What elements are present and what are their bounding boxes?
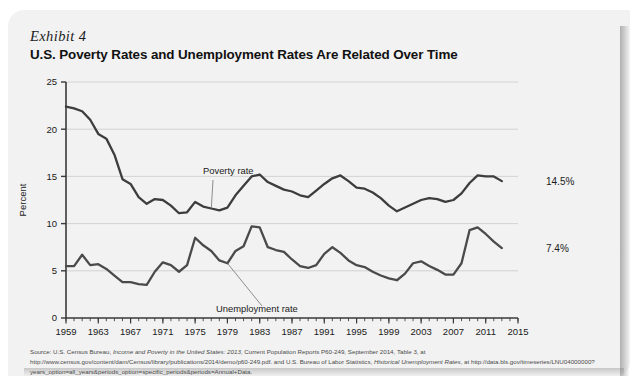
y-tick-label-5: 5 — [52, 265, 57, 276]
x-tick-label-1975: 1975 — [185, 326, 206, 337]
endpoint-label-unemployment-rate: 7.4% — [546, 243, 569, 254]
series-annotation-label: Unemployment rate — [216, 303, 298, 314]
x-tick-label-2007: 2007 — [443, 326, 464, 337]
y-axis-tick-labels-group: 0510152025 — [46, 76, 57, 323]
source-note: Source: U.S. Census Bureau, Income and P… — [30, 347, 610, 377]
x-tick-label-2003: 2003 — [411, 326, 432, 337]
x-tick-label-1979: 1979 — [217, 326, 238, 337]
y-tick-label-10: 10 — [46, 218, 57, 229]
source-line2-a: /Census/library/publications/2014/demo/p… — [127, 358, 374, 365]
annotation-leader-line — [211, 180, 213, 208]
chart-title: U.S. Poverty Rates and Unemployment Rate… — [30, 47, 458, 62]
y-tick-label-25: 25 — [46, 76, 57, 87]
x-tick-label-1987: 1987 — [281, 326, 302, 337]
source-line3: _option=all_years&periods_option=specifi… — [45, 368, 252, 375]
exhibit-card: Exhibit 4 U.S. Poverty Rates and Unemplo… — [8, 10, 630, 376]
y-tick-label-15: 15 — [46, 171, 57, 182]
data-series-group — [66, 107, 502, 285]
series-annotations-group: Poverty rateUnemployment rate — [203, 165, 298, 314]
x-tick-label-1967: 1967 — [120, 326, 141, 337]
y-tick-label-20: 20 — [46, 124, 57, 135]
annotation-leader-line — [227, 263, 262, 306]
y-tick-label-0: 0 — [52, 312, 57, 323]
source-line2-italic: Historical Unemployment Rates — [374, 358, 461, 365]
series-annotation-label: Poverty rate — [203, 165, 254, 176]
x-tick-label-2015: 2015 — [507, 326, 528, 337]
chart-plot-area: 0510152025 19591963196719711975197919831… — [8, 70, 630, 348]
endpoint-labels-group: 14.5%7.4% — [546, 176, 574, 254]
line-chart-svg: 0510152025 19591963196719711975197919831… — [8, 70, 630, 348]
gridlines-group — [66, 82, 518, 271]
x-axis-major-ticks-group — [66, 318, 518, 324]
y-axis-title: Percent — [17, 183, 28, 216]
source-line1-a: Source: U.S. Census Bureau, — [30, 348, 113, 355]
x-tick-label-1971: 1971 — [152, 326, 173, 337]
x-tick-label-1995: 1995 — [346, 326, 367, 337]
exhibit-number-label: Exhibit 4 — [30, 28, 86, 45]
x-axis-tick-labels-group: 1959196319671971197519791983198719911995… — [55, 326, 528, 337]
source-line1-italic: Income and Poverty in the United States:… — [113, 348, 241, 355]
series-line-poverty-rate — [66, 107, 502, 214]
x-tick-label-2011: 2011 — [475, 326, 495, 337]
x-tick-label-1963: 1963 — [88, 326, 109, 337]
x-tick-label-1983: 1983 — [249, 326, 270, 337]
x-tick-label-1999: 1999 — [378, 326, 399, 337]
x-tick-label-1959: 1959 — [55, 326, 76, 337]
series-line-unemployment-rate — [66, 226, 502, 285]
endpoint-label-poverty-rate: 14.5% — [546, 176, 574, 187]
x-tick-label-1991: 1991 — [314, 326, 335, 337]
